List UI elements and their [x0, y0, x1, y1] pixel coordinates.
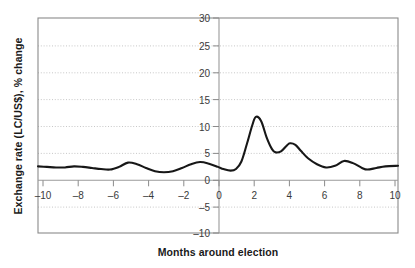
x-axis-title: Months around election	[158, 246, 279, 258]
y-tick-label: 20	[199, 68, 211, 79]
y-tick-label: 15	[199, 95, 211, 106]
chart-figure: 30 25 20 15 10 5 0 –5 –10 –10 –8 –6 –4 –…	[0, 0, 415, 268]
x-tick-label: 10	[389, 190, 401, 201]
x-tick-label: –8	[73, 190, 85, 201]
y-axis-title: Exchange rate (LC/US$), % change	[12, 37, 24, 214]
y-tick-label: 5	[204, 148, 210, 159]
x-tick-label: –6	[108, 190, 120, 201]
x-tick-label: 8	[357, 190, 363, 201]
y-tick-label: 25	[199, 41, 211, 52]
y-tick-label: 10	[199, 122, 211, 133]
x-tick-label: 2	[251, 190, 257, 201]
y-tick-label: –5	[199, 202, 211, 213]
exchange-rate-line-chart: 30 25 20 15 10 5 0 –5 –10 –10 –8 –6 –4 –…	[0, 0, 415, 268]
x-tick-label: –10	[35, 190, 52, 201]
y-tick-label: 0	[204, 175, 210, 186]
y-tick-label: –10	[193, 228, 210, 239]
x-tick-label: –4	[143, 190, 155, 201]
x-tick-label: 4	[287, 190, 293, 201]
x-tick-label: 0	[216, 190, 222, 201]
x-tick-label: 6	[322, 190, 328, 201]
y-tick-label: 30	[199, 13, 211, 24]
x-tick-label: –2	[178, 190, 190, 201]
